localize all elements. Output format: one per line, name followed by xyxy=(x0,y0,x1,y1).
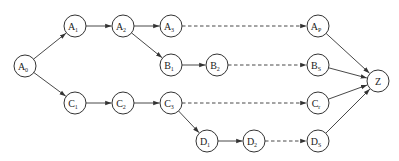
node-ds: DS xyxy=(307,130,329,152)
node-d1: D1 xyxy=(196,130,218,152)
edge-c3-to-d1 xyxy=(179,111,200,133)
node-a2: A2 xyxy=(112,15,134,37)
edge-a0-to-a1 xyxy=(34,33,66,59)
edge-ds-to-z xyxy=(326,89,370,133)
node-a1: A1 xyxy=(64,15,86,37)
node-cr: Cr xyxy=(307,92,329,114)
nodes-layer: A0A1A2A3APB1B2BSC1C2C3CrD1D2DSZ xyxy=(14,15,389,152)
node-a0: A0 xyxy=(14,55,36,77)
node-a3: A3 xyxy=(160,15,182,37)
node-b1: B1 xyxy=(160,54,182,76)
node-d2: D2 xyxy=(243,130,265,152)
node-c3: C3 xyxy=(160,92,182,114)
node-label: Z xyxy=(375,76,381,87)
node-c1: C1 xyxy=(64,92,86,114)
node-b2: B2 xyxy=(206,54,228,76)
edge-bs-to-z xyxy=(329,68,367,78)
edges-layer xyxy=(34,26,370,141)
edge-a0-to-c1 xyxy=(34,73,66,97)
node-z: Z xyxy=(367,70,389,92)
node-c2: C2 xyxy=(112,92,134,114)
node-ap: AP xyxy=(307,15,329,37)
node-bs: BS xyxy=(307,54,329,76)
path-diagram: A0A1A2A3APB1B2BSC1C2C3CrD1D2DSZ xyxy=(0,0,399,161)
edge-ap-to-z xyxy=(326,33,369,73)
edge-a2-to-b1 xyxy=(132,33,163,58)
